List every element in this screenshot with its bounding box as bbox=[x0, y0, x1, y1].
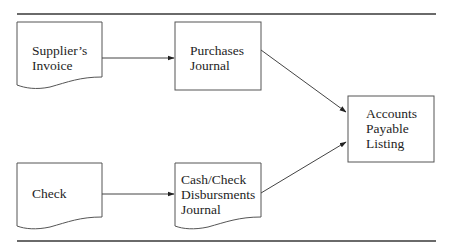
accounts-payable-listing-label-line-1: Accounts bbox=[366, 106, 417, 121]
accounts-payable-listing-label-line-2: Payable bbox=[366, 121, 417, 136]
cash-check-disbursments-journal-label-line-3: Journal bbox=[181, 202, 255, 217]
suppliers-invoice-label-line-1: Supplier’s bbox=[32, 43, 87, 58]
suppliers-invoice-label: Supplier’s Invoice bbox=[32, 43, 87, 73]
check-label-line-1: Check bbox=[32, 186, 67, 201]
cash-check-disbursments-journal-label-line-2: Disbursments bbox=[181, 187, 255, 202]
accounts-payable-listing-label: Accounts Payable Listing bbox=[366, 106, 417, 151]
arrow-purchases-journal-to-ap-listing bbox=[261, 50, 346, 112]
suppliers-invoice-label-line-2: Invoice bbox=[32, 58, 87, 73]
purchases-journal-label: Purchases Journal bbox=[190, 43, 244, 73]
arrow-disbursments-journal-to-ap-listing bbox=[261, 142, 346, 193]
check-label: Check bbox=[32, 186, 67, 201]
cash-check-disbursments-journal-label: Cash/Check Disbursments Journal bbox=[181, 172, 255, 217]
purchases-journal-label-line-2: Journal bbox=[190, 58, 244, 73]
purchases-journal-label-line-1: Purchases bbox=[190, 43, 244, 58]
cash-check-disbursments-journal-label-line-1: Cash/Check bbox=[181, 172, 255, 187]
accounts-payable-listing-label-line-3: Listing bbox=[366, 136, 417, 151]
